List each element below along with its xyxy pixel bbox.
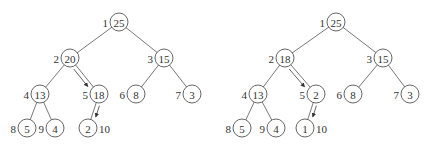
node-index: 10	[99, 123, 111, 135]
heap-node-4: 134	[242, 85, 268, 103]
node-value: 8	[133, 89, 139, 101]
node-value: 15	[378, 53, 390, 65]
heap-diagram: 2512021531341858637584921025118215313425…	[0, 0, 427, 146]
node-value: 2	[313, 89, 319, 101]
node-index: 4	[24, 89, 30, 101]
node-index: 1	[103, 17, 109, 29]
node-value: 20	[65, 53, 77, 65]
node-index: 5	[300, 89, 306, 101]
heap-node-2: 182	[269, 49, 295, 67]
node-index: 9	[39, 123, 45, 135]
heap-node-10: 210	[79, 119, 111, 137]
node-index: 10	[316, 123, 328, 135]
heap-node-3: 153	[367, 49, 393, 67]
node-value: 25	[114, 17, 126, 29]
node-index: 8	[226, 123, 232, 135]
heap-node-6: 86	[337, 85, 363, 103]
node-value: 3	[407, 89, 413, 101]
node-value: 25	[331, 17, 343, 29]
heap-node-9: 49	[260, 119, 286, 137]
node-value: 1	[302, 123, 308, 135]
heap-node-5: 25	[300, 85, 326, 103]
heap-node-4: 134	[24, 85, 50, 103]
node-index: 6	[337, 89, 343, 101]
heap-node-10: 110	[296, 119, 328, 137]
heap-node-1: 251	[320, 13, 346, 31]
heap-node-6: 86	[120, 85, 146, 103]
heap-node-2: 202	[54, 49, 80, 67]
node-value: 13	[35, 89, 47, 101]
node-value: 18	[280, 53, 292, 65]
node-index: 3	[148, 53, 154, 65]
node-value: 3	[189, 89, 195, 101]
node-index: 8	[11, 123, 17, 135]
node-index: 1	[320, 17, 326, 29]
node-value: 13	[253, 89, 265, 101]
heap-node-3: 153	[148, 49, 174, 67]
node-value: 15	[159, 53, 171, 65]
node-index: 6	[120, 89, 126, 101]
node-value: 2	[85, 123, 91, 135]
node-index: 4	[242, 89, 248, 101]
node-value: 5	[239, 123, 245, 135]
heap-node-5: 185	[83, 85, 109, 103]
node-value: 18	[94, 89, 106, 101]
tree-before: 25120215313418586375849210	[11, 13, 202, 137]
node-value: 5	[24, 123, 30, 135]
node-index: 5	[83, 89, 89, 101]
tree-after: 2511821531342586375849110	[226, 13, 420, 137]
heap-node-8: 58	[226, 119, 252, 137]
heap-node-7: 37	[394, 85, 420, 103]
node-value: 8	[350, 89, 356, 101]
sift-arrow-5-10	[313, 106, 317, 117]
node-index: 9	[260, 123, 266, 135]
heap-node-9: 49	[39, 119, 65, 137]
heap-node-8: 58	[11, 119, 37, 137]
node-value: 4	[273, 123, 279, 135]
node-index: 3	[367, 53, 373, 65]
node-index: 7	[176, 89, 182, 101]
heap-node-1: 251	[103, 13, 129, 31]
node-value: 4	[52, 123, 58, 135]
node-index: 2	[269, 53, 275, 65]
heap-node-7: 37	[176, 85, 202, 103]
node-index: 7	[394, 89, 400, 101]
sift-arrow-5-10	[96, 106, 100, 117]
node-index: 2	[54, 53, 60, 65]
